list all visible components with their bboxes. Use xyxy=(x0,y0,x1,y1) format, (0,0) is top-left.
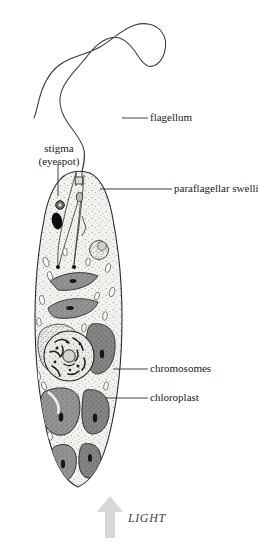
basal-body-left xyxy=(56,265,60,269)
diagram-canvas xyxy=(0,0,258,543)
euglena-diagram-figure: flagellum stigma (eyespot) paraflagellar… xyxy=(0,0,258,543)
label-paraflagellar-swelling: paraflagellar swelling xyxy=(174,182,258,195)
canal-collar xyxy=(75,177,83,184)
pyrenoid-3 xyxy=(100,350,104,359)
label-stigma: stigma (eyespot) xyxy=(18,142,100,167)
pyrenoid-2 xyxy=(66,306,74,310)
pyrenoid-7 xyxy=(88,454,92,462)
basal-body-right xyxy=(72,265,76,269)
pyrenoid-4 xyxy=(59,412,64,421)
label-chromosomes: chromosomes xyxy=(150,362,211,375)
paraflagellar-swelling-body xyxy=(76,192,82,201)
label-flagellum: flagellum xyxy=(150,111,192,124)
pyrenoid-1 xyxy=(70,279,77,283)
nucleolus xyxy=(63,350,75,362)
label-light: LIGHT xyxy=(128,511,166,526)
pyrenoid-6 xyxy=(61,460,65,468)
label-chloroplast: chloroplast xyxy=(150,391,199,404)
chloroplast-blade-5 xyxy=(82,390,109,434)
label-stigma-line1: stigma xyxy=(18,142,100,155)
pyrenoid-5 xyxy=(93,414,97,423)
cell-body xyxy=(35,171,122,487)
label-stigma-line2: (eyespot) xyxy=(18,155,100,168)
light-arrow xyxy=(97,496,123,538)
